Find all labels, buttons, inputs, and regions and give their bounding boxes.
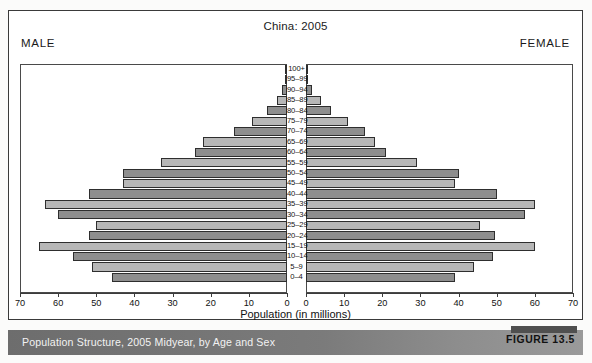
pyramid-row: 95–99 [20, 74, 573, 84]
age-group-label: 40–44 [287, 189, 306, 199]
x-tick-male [211, 293, 212, 297]
male-bar [58, 210, 287, 219]
male-bar [195, 148, 287, 157]
female-bar [306, 158, 417, 167]
age-group-label: 65–69 [287, 137, 306, 147]
x-tick-female [459, 293, 460, 297]
x-axis-line-female [306, 293, 573, 294]
female-bar [306, 210, 525, 219]
age-group-label: 95–99 [287, 74, 306, 84]
figure-number-badge: FIGURE 13.5 [506, 334, 575, 345]
x-tick-female [306, 293, 307, 297]
pyramid-row: 70–74 [20, 126, 573, 136]
age-group-label: 20–24 [287, 231, 306, 241]
x-tick-male [58, 293, 59, 297]
male-bar [112, 273, 287, 282]
male-bar [89, 189, 287, 198]
age-group-label: 15–19 [287, 241, 306, 251]
age-group-label: 60–64 [287, 147, 306, 157]
pyramid-row: 10–14 [20, 251, 573, 261]
figure-card: China: 2005 MALE FEMALE 100+95–9990–9485… [8, 10, 583, 320]
x-tick-male [96, 293, 97, 297]
x-tick-male [134, 293, 135, 297]
pyramid-row: 55–59 [20, 158, 573, 168]
x-tick-male [287, 293, 288, 297]
x-tick-label-male: 0 [284, 298, 289, 308]
x-tick-label-male: 40 [129, 298, 139, 308]
age-group-label: 35–39 [287, 199, 306, 209]
x-tick-female [420, 293, 421, 297]
male-bar [39, 242, 287, 251]
x-tick-female [497, 293, 498, 297]
male-bar [89, 231, 287, 240]
female-bar [306, 148, 386, 157]
x-tick-label-male: 60 [53, 298, 63, 308]
male-bar [45, 200, 287, 209]
female-bar [306, 242, 535, 251]
female-bar [306, 106, 331, 115]
x-tick-label-female: 30 [415, 298, 425, 308]
x-tick-label-female: 40 [453, 298, 463, 308]
x-tick-label-female: 50 [492, 298, 502, 308]
x-tick-label-female: 20 [377, 298, 387, 308]
male-bar [234, 127, 287, 136]
female-bar [306, 252, 493, 261]
age-group-label: 55–59 [287, 158, 306, 168]
x-axis-title: Population (in millions) [9, 308, 582, 320]
female-bar [306, 117, 348, 126]
female-bar [306, 169, 459, 178]
x-tick-label-female: 70 [568, 298, 578, 308]
age-group-label: 85–89 [287, 95, 306, 105]
male-bar [73, 252, 287, 261]
pyramid-row: 30–34 [20, 210, 573, 220]
age-group-label: 50–54 [287, 168, 306, 178]
age-group-label: 75–79 [287, 116, 306, 126]
x-tick-label-female: 60 [530, 298, 540, 308]
chart-title: China: 2005 [9, 20, 582, 32]
age-group-label: 90–94 [287, 85, 306, 95]
pyramid-row: 85–89 [20, 95, 573, 105]
caption-text: Population Structure, 2005 Midyear, by A… [22, 336, 275, 348]
age-group-label: 30–34 [287, 210, 306, 220]
age-group-label: 70–74 [287, 126, 306, 136]
badge-strip [511, 326, 577, 333]
x-tick-female [535, 293, 536, 297]
x-tick-female [382, 293, 383, 297]
male-bar [267, 106, 287, 115]
x-tick-female [344, 293, 345, 297]
female-bar [306, 96, 321, 105]
pyramid-row: 0–4 [20, 272, 573, 282]
female-side-label: FEMALE [520, 37, 570, 49]
pyramid-row: 75–79 [20, 116, 573, 126]
male-bar [92, 262, 287, 271]
female-bar [306, 179, 455, 188]
x-tick-label-male: 50 [91, 298, 101, 308]
x-tick-label-male: 20 [206, 298, 216, 308]
age-group-label: 45–49 [287, 178, 306, 188]
pyramid-row: 100+ [20, 64, 573, 74]
pyramid-rows: 100+95–9990–9485–8980–8475–7970–7465–696… [20, 64, 573, 293]
age-group-label: 10–14 [287, 251, 306, 261]
male-bar [252, 117, 287, 126]
x-axis-line-male [20, 293, 287, 294]
x-tick-label-male: 70 [15, 298, 25, 308]
male-bar [161, 158, 287, 167]
caption-bar: Population Structure, 2005 Midyear, by A… [8, 330, 583, 355]
male-bar [123, 179, 287, 188]
pyramid-row: 40–44 [20, 189, 573, 199]
female-bar [306, 127, 365, 136]
pyramid-row: 90–94 [20, 85, 573, 95]
pyramid-row: 25–29 [20, 220, 573, 230]
female-bar [306, 273, 455, 282]
male-bar [96, 221, 287, 230]
x-axis: 001010202030304040505060607070 [20, 293, 573, 294]
x-tick-label-female: 10 [339, 298, 349, 308]
pyramid-row: 20–24 [20, 231, 573, 241]
male-bar [123, 169, 287, 178]
pyramid-row: 80–84 [20, 106, 573, 116]
pyramid-row: 45–49 [20, 178, 573, 188]
x-tick-female [573, 293, 574, 297]
pyramid-row: 60–64 [20, 147, 573, 157]
figure-page: China: 2005 MALE FEMALE 100+95–9990–9485… [0, 0, 592, 363]
x-tick-male [173, 293, 174, 297]
